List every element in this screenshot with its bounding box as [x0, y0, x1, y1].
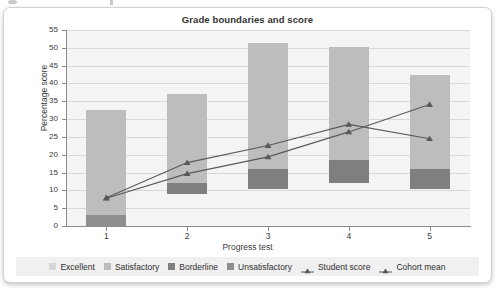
y-tick-label: 20: [32, 150, 58, 159]
legend-swatch-icon: [104, 263, 111, 270]
x-axis-title: Progress test: [4, 242, 491, 252]
chart-card: Grade boundaries and score Percentage sc…: [3, 7, 492, 283]
legend-swatch-icon: [227, 263, 234, 270]
y-tick-label: 45: [32, 61, 58, 70]
chart-title: Grade boundaries and score: [4, 14, 491, 25]
y-tick-label: 15: [32, 168, 58, 177]
chart-legend: ExcellentSatisfactoryBorderlineUnsatisfa…: [16, 257, 479, 276]
clipped-text-remnant: [0, 0, 497, 7]
legend-line-marker-icon: [301, 262, 314, 271]
legend-label: Unsatisfactory: [238, 262, 292, 272]
legend-item-unsatisfactory[interactable]: Unsatisfactory: [227, 262, 292, 272]
chart-figure: Grade boundaries and score Percentage sc…: [4, 8, 491, 282]
legend-label: Cohort mean: [396, 262, 445, 272]
legend-item-excellent[interactable]: Excellent: [49, 262, 95, 272]
legend-label: Excellent: [60, 262, 95, 272]
y-tick-label: 30: [32, 114, 58, 123]
x-tick-label: 1: [86, 231, 126, 241]
legend-item-student-score[interactable]: Student score: [301, 262, 370, 272]
y-tick-label: 5: [32, 203, 58, 212]
y-tick-label: 25: [32, 132, 58, 141]
legend-swatch-icon: [49, 263, 56, 270]
series-layer: [66, 30, 470, 226]
x-tick-label: 4: [329, 231, 369, 241]
legend-swatch-icon: [168, 263, 175, 270]
y-tick-label: 40: [32, 78, 58, 87]
legend-line-marker-icon: [379, 262, 392, 271]
x-tick-label: 5: [410, 231, 450, 241]
series-marker: [426, 101, 433, 107]
legend-item-cohort-mean[interactable]: Cohort mean: [379, 262, 445, 272]
legend-label: Borderline: [179, 262, 218, 272]
legend-label: Satisfactory: [115, 262, 159, 272]
x-tick-label: 2: [167, 231, 207, 241]
series-line-student-score: [106, 105, 429, 199]
y-tick-label: 35: [32, 96, 58, 105]
legend-item-satisfactory[interactable]: Satisfactory: [104, 262, 159, 272]
y-tick-label: 50: [32, 43, 58, 52]
y-tick-label: 10: [32, 185, 58, 194]
legend-label: Student score: [318, 262, 370, 272]
y-tick-label: 55: [32, 25, 58, 34]
series-marker: [345, 121, 352, 127]
series-line-cohort-mean: [106, 124, 429, 197]
x-tick-label: 3: [248, 231, 288, 241]
y-tick-label: 0: [32, 221, 58, 230]
legend-item-borderline[interactable]: Borderline: [168, 262, 218, 272]
